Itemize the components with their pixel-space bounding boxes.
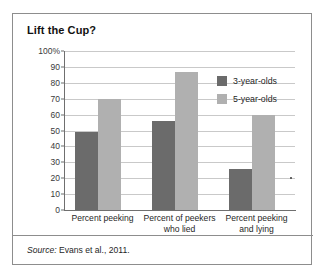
x-axis-label-line: Percent peeking [64, 213, 141, 224]
chart-legend: 3-year-olds5-year-olds [217, 73, 277, 109]
legend-swatch-icon [217, 76, 227, 86]
y-axis-tick-label: 10 [51, 189, 60, 199]
legend-label: 5-year-olds [233, 94, 277, 104]
x-axis-label-line: and lying [218, 224, 295, 235]
y-axis-tick-label: 70 [51, 94, 60, 104]
figure-frame: Lift the Cup? 0102030405060708090100% Pe… [12, 13, 312, 265]
y-axis-tick-label: 0 [55, 205, 60, 215]
y-axis-tick-label: 30 [51, 157, 60, 167]
legend-label: 3-year-olds [233, 76, 277, 86]
x-axis-label-line: Percent of peekers [141, 213, 218, 224]
bar [152, 121, 175, 210]
y-axis-tick-label: 20 [51, 173, 60, 183]
bar-group [141, 51, 218, 210]
y-axis-tick-label: 90 [51, 62, 60, 72]
source-note: Source: Evans et al., 2011. [27, 245, 130, 255]
source-divider [13, 235, 313, 236]
x-axis-label: Percent of peekerswho lied [141, 213, 218, 235]
bar [175, 72, 198, 210]
x-axis-line [64, 210, 296, 211]
legend-swatch-icon [217, 94, 227, 104]
y-axis-tick-label: 40 [51, 141, 60, 151]
y-axis-tick-label: 100% [38, 46, 60, 56]
x-axis-label: Percent peeking [64, 213, 141, 224]
x-axis-labels: Percent peekingPercent of peekerswho lie… [64, 213, 295, 249]
y-axis-tick-label: 50 [51, 126, 60, 136]
source-label: Source: [27, 245, 57, 255]
y-axis-tick-label: 80 [51, 78, 60, 88]
source-citation: Evans et al., 2011. [57, 245, 130, 255]
bar [75, 132, 98, 210]
x-axis-label-line: who lied [141, 224, 218, 235]
x-axis-label-line: Percent peeking [218, 213, 295, 224]
bar [229, 169, 252, 210]
x-axis-label: Percent peekingand lying [218, 213, 295, 235]
y-axis-tick-label: 60 [51, 110, 60, 120]
legend-item: 3-year-olds [217, 73, 277, 88]
print-speck-icon [290, 177, 292, 179]
chart-plot: 0102030405060708090100% Percent peekingP… [13, 14, 313, 266]
y-axis-line [64, 51, 65, 211]
legend-item: 5-year-olds [217, 91, 277, 106]
bar [252, 115, 275, 210]
bar-group [64, 51, 141, 210]
bar [98, 99, 121, 210]
